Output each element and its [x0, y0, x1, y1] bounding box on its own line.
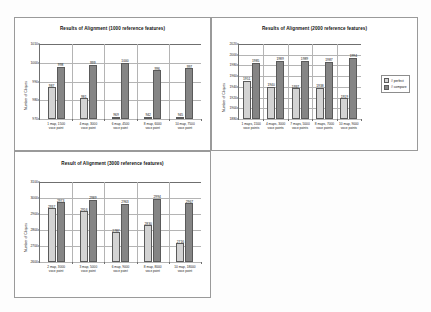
x-axis-category-label: 10 map, 18000voce point: [169, 265, 201, 273]
bar-value-label: 1951: [243, 77, 250, 81]
bar-value-label: 999: [90, 61, 96, 65]
bar-perfect: 1940: [267, 87, 275, 119]
x-axis-category-label: 8 maps, 7000voce points: [312, 122, 336, 130]
x-axis-category-label: 3 map, 5000voce point: [72, 265, 104, 273]
x-tick-mark: [201, 262, 202, 264]
y-tick-label: 2600: [30, 260, 38, 264]
legend-swatch-compare-icon: [384, 85, 389, 90]
bar-compare: 1000: [121, 63, 129, 119]
y-tick-label: 1010: [30, 42, 38, 46]
bar-group: 945997: [169, 44, 201, 119]
y-tick-label: 990: [32, 80, 38, 84]
y-tick-label: 3100: [30, 180, 38, 184]
chart-title-2000: Results of Alignment (2000 reference fea…: [212, 26, 417, 31]
bar-value-label: 2916: [80, 208, 87, 212]
x-tick-mark: [201, 119, 202, 121]
bar-value-label: 969: [113, 113, 119, 117]
bar-compare: 2994: [153, 199, 161, 262]
bar-group: 19401989: [263, 44, 287, 119]
y-tick-label: 3000: [30, 196, 38, 200]
x-axis-category-label: 1 map, 1500voce point: [40, 122, 72, 130]
bar-group: 19371989: [288, 44, 312, 119]
bar-group: 27872963: [104, 182, 136, 262]
y-tick-label: 1000: [30, 61, 38, 65]
bar-compare: 2973: [57, 202, 65, 262]
y-tick-label: 970: [32, 117, 38, 121]
bar-value-label: 2963: [121, 200, 128, 204]
legend-label-perfect: # perfect: [391, 79, 404, 83]
document-page: Results of Alignment (1000 reference fea…: [0, 0, 431, 312]
bar-value-label: 997: [187, 65, 193, 69]
bar-group: 9691000: [104, 44, 136, 119]
chart-legend-2000: # perfect # compare: [381, 75, 410, 93]
x-axis-category-label: 2 map, 3000voce point: [40, 265, 72, 273]
bar-value-label: 2973: [57, 199, 64, 203]
y-tick-label: 1880: [229, 117, 237, 121]
bar-perfect: 2916: [80, 211, 88, 262]
x-axis-labels-3000: 2 map, 3000voce point3 map, 5000voce poi…: [40, 262, 201, 273]
bar-compare: 1994: [349, 58, 357, 119]
plot-2000: 20202000198019601940192019001880 1951198…: [238, 44, 361, 120]
bar-compare: 996: [153, 70, 161, 119]
legend-entry-perfect: # perfect: [384, 78, 406, 83]
y-tick-label: 2800: [30, 228, 38, 232]
plot-3000: 310030002900280027002600 293729732916298…: [39, 182, 201, 263]
chart-panel-1000: Results of Alignment (1000 reference fea…: [14, 17, 211, 151]
bar-value-label: 1989: [276, 57, 283, 61]
y-tick-label: 1900: [229, 106, 237, 110]
x-axis-category-label: 8 map, 6000voce point: [137, 122, 169, 130]
bar-value-label: 998: [58, 63, 64, 67]
bar-value-label: 2716: [177, 240, 184, 244]
bar-value-label: 1994: [350, 54, 357, 58]
bar-perfect: 1919: [340, 98, 348, 119]
y-tick-label: 2700: [30, 244, 38, 248]
y-tick-label: 1960: [229, 74, 237, 78]
y-axis-label-1000: Number of Cliques: [24, 81, 28, 110]
bar-perfect: 2830: [144, 225, 152, 262]
bar-value-label: 2787: [112, 229, 119, 233]
x-axis-labels-2000: 1 maps, 1500voce points4 maps, 3000voce …: [239, 119, 361, 130]
x-axis-category-label: 10 map, 7500voce point: [169, 122, 201, 130]
bar-value-label: 996: [154, 67, 160, 71]
bar-value-label: 1985: [252, 59, 259, 63]
bar-value-label: 1919: [341, 95, 348, 99]
chart-title-3000: Result of Alignment (3000 reference feat…: [15, 161, 210, 166]
x-axis-category-label: 1 maps, 1500voce points: [239, 122, 263, 130]
bar-value-label: 2937: [48, 205, 55, 209]
bar-group: 19511985: [239, 44, 263, 119]
bar-compare: 999: [89, 65, 97, 119]
chart-panel-2000: Results of Alignment (2000 reference fea…: [211, 17, 418, 151]
bar-value-label: 2967: [186, 200, 193, 204]
bar-perfect: 981: [80, 98, 88, 119]
legend-entry-compare: # compare: [384, 85, 406, 90]
x-axis-category-label: 6 map, 9000voce point: [104, 265, 136, 273]
bar-groups-2000: 1951198519401989193719891938198719191994: [239, 44, 361, 119]
bar-compare: 1987: [325, 62, 333, 119]
bar-value-label: 2989: [89, 196, 96, 200]
bar-value-label: 1940: [267, 83, 274, 87]
y-axis-label-3000: Number of Cliques: [24, 223, 28, 252]
bar-perfect: 1938: [316, 88, 324, 119]
bar-compare: 1989: [276, 61, 284, 119]
bar-compare: 2967: [185, 203, 193, 262]
bar-compare: 998: [57, 67, 65, 120]
bar-group: 981999: [72, 44, 104, 119]
bar-group: 28302994: [137, 182, 169, 262]
y-tick-label: 2000: [229, 53, 237, 57]
bar-value-label: 1938: [316, 84, 323, 88]
bar-value-label: 942: [145, 113, 151, 117]
bar-group: 987998: [40, 44, 72, 119]
bar-value-label: 987: [49, 84, 55, 88]
y-tick-label: 980: [32, 98, 38, 102]
x-axis-category-label: 8 map, 8000voce point: [137, 265, 169, 273]
plot-area-3000: 310030002900280027002600 293729732916298…: [39, 182, 201, 263]
legend-swatch-perfect-icon: [384, 78, 389, 83]
bar-value-label: 1000: [121, 59, 128, 63]
bar-value-label: 945: [178, 113, 184, 117]
y-tick-label: 1920: [229, 96, 237, 100]
bar-value-label: 1937: [292, 85, 299, 89]
x-tick-mark: [361, 119, 362, 121]
bar-perfect: 2787: [112, 232, 120, 262]
chart-panel-3000: Result of Alignment (3000 reference feat…: [14, 151, 211, 298]
y-axis-label-2000: Number of Cliques: [222, 83, 226, 112]
